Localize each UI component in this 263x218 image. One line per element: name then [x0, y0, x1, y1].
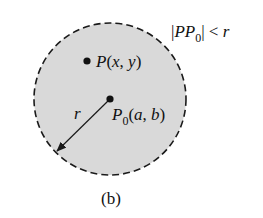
less-than-sign: < [205, 22, 223, 41]
point-p-dot [83, 57, 90, 64]
p0-name: P [111, 105, 122, 124]
figure-caption: (b) [101, 189, 121, 208]
condition-r: r [223, 22, 230, 41]
point-p-label: P(x, y) [95, 52, 141, 71]
radius-label: r [74, 104, 81, 123]
disk-diagram: P(x, y) r P0(a, b) |PP0| < r (b) [0, 0, 263, 218]
condition-label: |PP0| < r [171, 22, 230, 45]
center-point-p0-dot [106, 95, 113, 102]
point-p-args: (x, y) [106, 52, 141, 71]
condition-pp: PP [173, 22, 195, 41]
point-p-name: P [95, 52, 106, 71]
p0-args: (a, b) [128, 105, 165, 124]
